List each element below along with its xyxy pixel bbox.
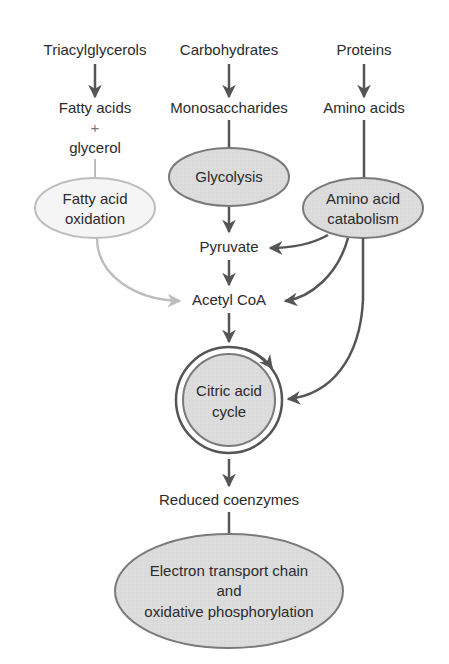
arrow-catabolism-to-pyruvate [270,235,328,248]
label-amino-acid-catabolism-2: catabolism [327,210,399,227]
arrow-fatty-acid-oxidation-to-acetyl-coa [97,238,180,301]
label-triacylglycerols: Triacylglycerols [44,41,147,58]
label-amino-acids: Amino acids [323,99,405,116]
process-glycolysis: Glycolysis [169,148,289,206]
label-fatty-acids: Fatty acids [59,99,132,116]
process-fatty-acid-oxidation: Fatty acid oxidation [35,178,155,238]
arrow-catabolism-to-citric-acid-cycle [288,238,363,399]
label-glycolysis: Glycolysis [195,168,263,185]
label-amino-acid-catabolism-1: Amino acid [326,190,400,207]
label-citric-acid-cycle-2: cycle [212,403,246,420]
label-pyruvate: Pyruvate [199,238,258,255]
label-carbohydrates: Carbohydrates [180,41,278,58]
metabolism-diagram: Triacylglycerols Carbohydrates Proteins … [0,0,449,664]
label-etc-1: Electron transport chain [150,562,308,579]
label-plus: + [91,119,100,136]
process-electron-transport-chain: Electron transport chain and oxidative p… [115,534,343,648]
label-etc-3: oxidative phosphorylation [144,603,313,620]
label-acetyl-coa: Acetyl CoA [192,291,266,308]
label-citric-acid-cycle-1: Citric acid [196,382,262,399]
label-fatty-acid-oxidation-1: Fatty acid [62,190,127,207]
process-citric-acid-cycle: Citric acid cycle [176,347,282,453]
label-glycerol: glycerol [69,139,121,156]
label-fatty-acid-oxidation-2: oxidation [65,210,125,227]
label-proteins: Proteins [336,41,391,58]
process-amino-acid-catabolism: Amino acid catabolism [303,178,423,238]
label-etc-2: and [216,582,241,599]
label-monosaccharides: Monosaccharides [170,99,288,116]
label-reduced-coenzymes: Reduced coenzymes [159,491,299,508]
